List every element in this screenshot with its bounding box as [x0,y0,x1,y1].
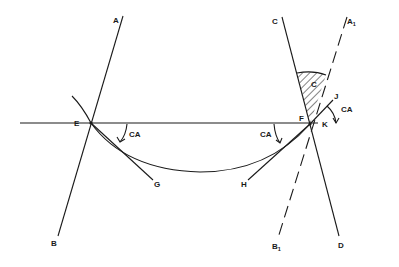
label-b: B [51,239,57,248]
meniscus-curve [72,96,310,172]
contact-angle-diagram: A B C D E F G H J K A1 B1 CA CA CA C [0,0,399,267]
label-a1: A1 [347,17,356,27]
tangent-eg [91,123,153,180]
label-k: K [322,120,328,129]
label-b1: B1 [272,242,281,252]
label-j: J [334,92,338,101]
label-c: C [272,17,278,26]
label-d: D [338,241,344,250]
point-f-dot [308,122,311,125]
line-a1b1-dashed [278,17,347,238]
line-ab [58,16,123,236]
label-hatched-c: C [311,80,317,89]
line-cd [282,17,339,236]
label-ca-f-right: CA [341,105,353,114]
point-e-dot [89,121,92,124]
label-ca-f-left: CA [260,130,272,139]
label-a: A [113,16,119,25]
arrow-head-e [117,137,125,142]
label-g: G [154,180,160,189]
label-h: H [241,180,247,189]
tangent-fh [248,124,310,180]
label-f: F [299,114,304,123]
label-ca-e: CA [129,130,141,139]
label-e: E [74,119,80,128]
